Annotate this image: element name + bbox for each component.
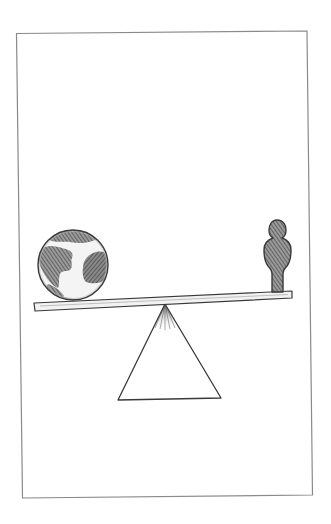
sketch-canvas bbox=[0, 0, 331, 524]
fulcrum bbox=[118, 304, 221, 400]
globe-icon bbox=[38, 230, 108, 303]
person-icon bbox=[264, 220, 291, 292]
